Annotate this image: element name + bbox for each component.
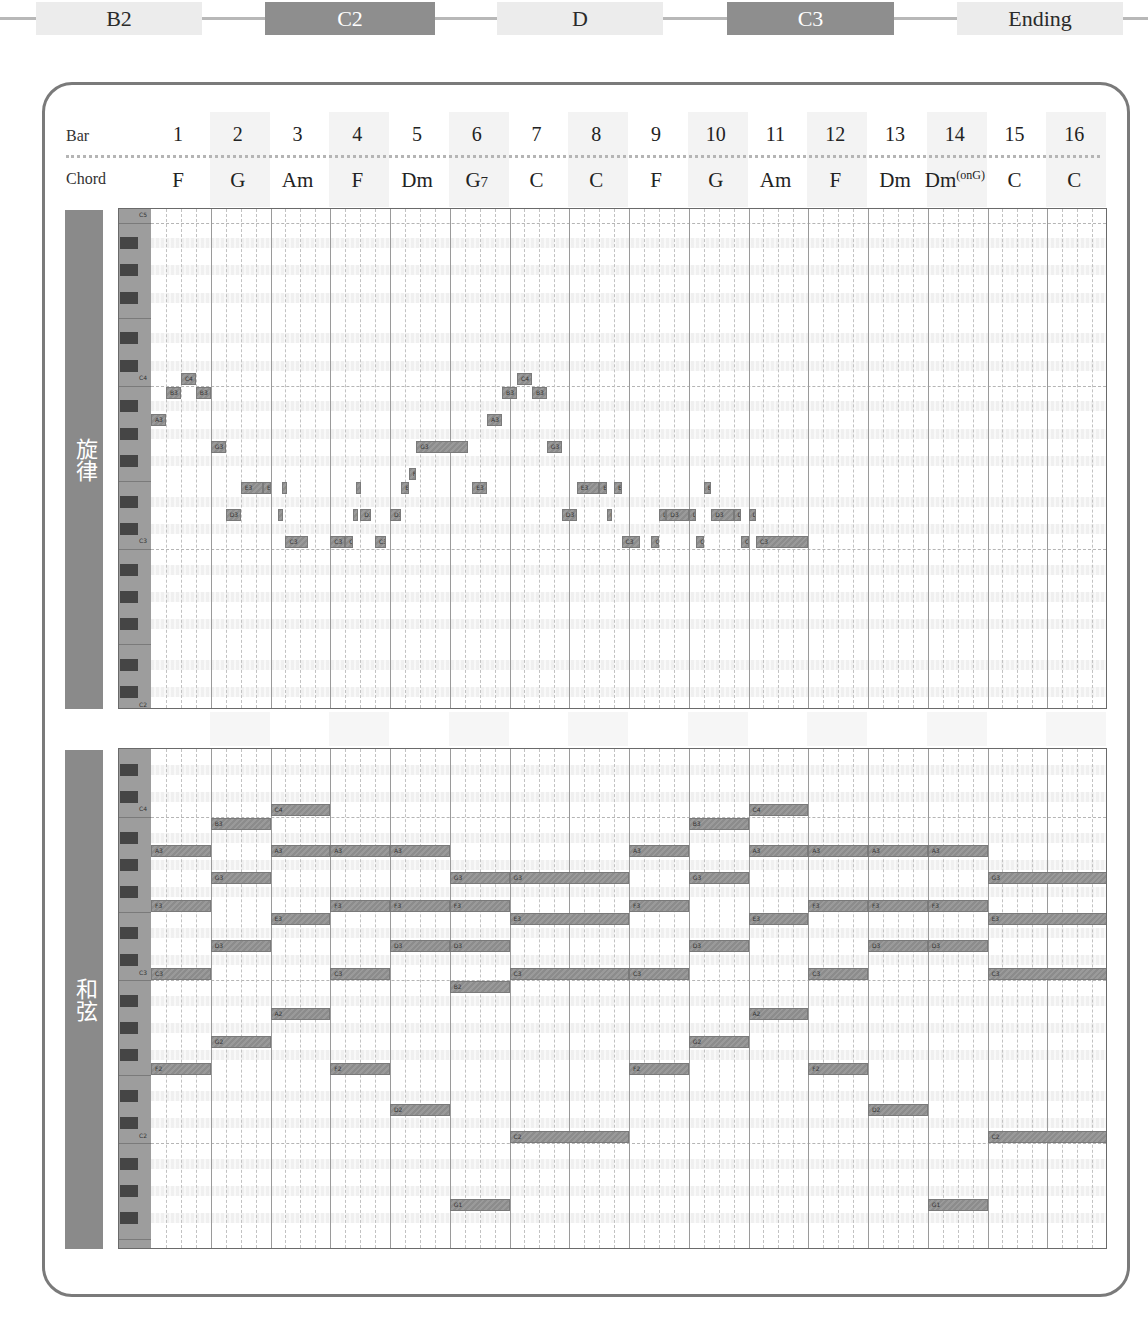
note-d3[interactable]: D3 xyxy=(607,509,612,521)
note-d3[interactable]: D3 xyxy=(562,509,577,521)
section-tab-c3[interactable]: C3 xyxy=(727,2,894,35)
note-a2[interactable]: A2 xyxy=(749,1008,809,1020)
note-e3[interactable]: E3 xyxy=(356,482,361,494)
note-a3[interactable]: A3 xyxy=(928,845,988,857)
note-f3[interactable]: F3 xyxy=(390,900,450,912)
note-c3[interactable]: C3 xyxy=(510,968,630,980)
note-a3[interactable]: A3 xyxy=(330,845,390,857)
note-e3[interactable]: E3 xyxy=(472,482,487,494)
note-c3[interactable]: C3 xyxy=(629,968,689,980)
note-g3[interactable]: G3 xyxy=(689,872,749,884)
note-f2[interactable]: F2 xyxy=(629,1063,689,1075)
note-b3[interactable]: B3 xyxy=(532,387,547,399)
note-b3[interactable]: B3 xyxy=(196,387,211,399)
note-f3[interactable]: F3 xyxy=(151,900,211,912)
note-e3[interactable]: E3 xyxy=(704,482,711,494)
note-b3[interactable]: B3 xyxy=(689,818,749,830)
note-a2[interactable]: A2 xyxy=(271,1008,331,1020)
note-f3[interactable]: F3 xyxy=(330,900,390,912)
note-c3[interactable]: C3 xyxy=(988,968,1108,980)
note-c3[interactable]: C3 xyxy=(808,968,868,980)
note-f3[interactable]: F3 xyxy=(928,900,988,912)
section-tab-ending[interactable]: Ending xyxy=(957,2,1123,35)
section-tab-d[interactable]: D xyxy=(497,2,663,35)
note-c4[interactable]: C4 xyxy=(517,373,532,385)
note-d3[interactable]: D3 xyxy=(749,509,756,521)
note-g3[interactable]: G3 xyxy=(450,872,510,884)
note-b3[interactable]: B3 xyxy=(166,387,181,399)
note-c3[interactable]: C3 xyxy=(696,536,703,548)
note-a3[interactable]: A3 xyxy=(629,845,689,857)
note-e3[interactable]: E3 xyxy=(749,913,809,925)
note-a3[interactable]: A3 xyxy=(749,845,809,857)
note-c4[interactable]: C4 xyxy=(181,373,196,385)
note-e3[interactable]: E3 xyxy=(282,482,287,494)
note-c3[interactable]: C3 xyxy=(741,536,748,548)
note-c3[interactable]: C3 xyxy=(330,536,345,548)
note-f2[interactable]: F2 xyxy=(808,1063,868,1075)
note-d3[interactable]: D3 xyxy=(734,509,741,521)
note-a3[interactable]: A3 xyxy=(151,414,166,426)
note-f3[interactable]: F3 xyxy=(409,468,416,480)
note-b2[interactable]: B2 xyxy=(450,981,510,993)
note-c3[interactable]: C3 xyxy=(285,536,307,548)
note-g3[interactable]: G3 xyxy=(510,872,630,884)
note-d3[interactable]: D3 xyxy=(353,509,358,521)
note-g3[interactable]: G3 xyxy=(211,872,271,884)
note-e3[interactable]: E3 xyxy=(263,482,270,494)
note-f3[interactable]: F3 xyxy=(808,900,868,912)
note-d3[interactable]: D3 xyxy=(868,940,928,952)
note-e3[interactable]: E3 xyxy=(599,482,606,494)
note-e3[interactable]: E3 xyxy=(988,913,1108,925)
note-c2[interactable]: C2 xyxy=(988,1131,1108,1143)
note-c3[interactable]: C3 xyxy=(651,536,658,548)
note-g3[interactable]: G3 xyxy=(547,441,562,453)
note-c3[interactable]: C3 xyxy=(330,968,390,980)
note-e3[interactable]: E3 xyxy=(614,482,621,494)
note-g2[interactable]: G2 xyxy=(211,1036,271,1048)
note-g1[interactable]: G1 xyxy=(450,1199,510,1211)
note-a3[interactable]: A3 xyxy=(271,845,331,857)
note-d3[interactable]: D3 xyxy=(226,509,241,521)
note-c3[interactable]: C3 xyxy=(375,536,386,548)
note-f2[interactable]: F2 xyxy=(151,1063,211,1075)
note-g1[interactable]: G1 xyxy=(928,1199,988,1211)
note-d2[interactable]: D2 xyxy=(868,1104,928,1116)
note-d3[interactable]: D3 xyxy=(278,509,283,521)
note-e3[interactable]: E3 xyxy=(577,482,599,494)
note-g2[interactable]: G2 xyxy=(689,1036,749,1048)
note-d2[interactable]: D2 xyxy=(390,1104,450,1116)
note-d3[interactable]: D3 xyxy=(450,940,510,952)
note-e3[interactable]: E3 xyxy=(271,913,331,925)
note-a3[interactable]: A3 xyxy=(487,414,502,426)
note-c3[interactable]: C3 xyxy=(622,536,641,548)
note-c2[interactable]: C2 xyxy=(510,1131,630,1143)
note-f3[interactable]: F3 xyxy=(629,900,689,912)
note-a3[interactable]: A3 xyxy=(151,845,211,857)
note-d3[interactable]: D3 xyxy=(360,509,371,521)
note-c3[interactable]: C3 xyxy=(151,968,211,980)
section-tab-c2[interactable]: C2 xyxy=(265,2,435,35)
note-d3[interactable]: D3 xyxy=(689,509,696,521)
note-c3[interactable]: C3 xyxy=(345,536,352,548)
note-d3[interactable]: D3 xyxy=(211,940,271,952)
note-f3[interactable]: F3 xyxy=(450,900,510,912)
note-g3[interactable]: G3 xyxy=(211,441,226,453)
note-a3[interactable]: A3 xyxy=(390,845,450,857)
note-d3[interactable]: D3 xyxy=(659,509,666,521)
note-c4[interactable]: C4 xyxy=(749,804,809,816)
note-e3[interactable]: E3 xyxy=(241,482,263,494)
note-d3[interactable]: D3 xyxy=(689,940,749,952)
note-f3[interactable]: F3 xyxy=(868,900,928,912)
note-c4[interactable]: C4 xyxy=(271,804,331,816)
note-d3[interactable]: D3 xyxy=(711,509,733,521)
note-e3[interactable]: E3 xyxy=(401,482,408,494)
note-d3[interactable]: D3 xyxy=(928,940,988,952)
note-a3[interactable]: A3 xyxy=(868,845,928,857)
note-b3[interactable]: B3 xyxy=(211,818,271,830)
section-tab-b2[interactable]: B2 xyxy=(36,2,202,35)
note-f2[interactable]: F2 xyxy=(330,1063,390,1075)
note-b3[interactable]: B3 xyxy=(502,387,517,399)
note-c3[interactable]: C3 xyxy=(756,536,808,548)
note-d3[interactable]: D3 xyxy=(666,509,688,521)
